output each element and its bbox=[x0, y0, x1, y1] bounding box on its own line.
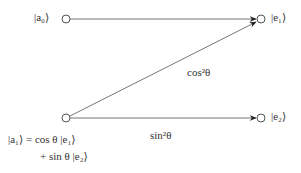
edge-label-sin2: sin²θ bbox=[150, 129, 171, 141]
node-a0 bbox=[62, 15, 70, 23]
label-e2: |e₂⟩ bbox=[271, 110, 286, 123]
node-e1 bbox=[257, 15, 265, 23]
a1-equation-line2: + sin θ |e₂⟩ bbox=[40, 150, 88, 163]
label-e1: |e₁⟩ bbox=[271, 11, 286, 24]
diagram-canvas bbox=[0, 0, 301, 173]
label-a0: |a₀⟩ bbox=[34, 11, 49, 24]
edge-a1-e1 bbox=[70, 22, 256, 116]
node-a1 bbox=[62, 114, 70, 122]
edge-label-cos2: cos²θ bbox=[187, 66, 210, 78]
node-e2 bbox=[257, 114, 265, 122]
a1-equation-line1: |a₁⟩ = cos θ |e₁⟩ bbox=[8, 133, 76, 146]
